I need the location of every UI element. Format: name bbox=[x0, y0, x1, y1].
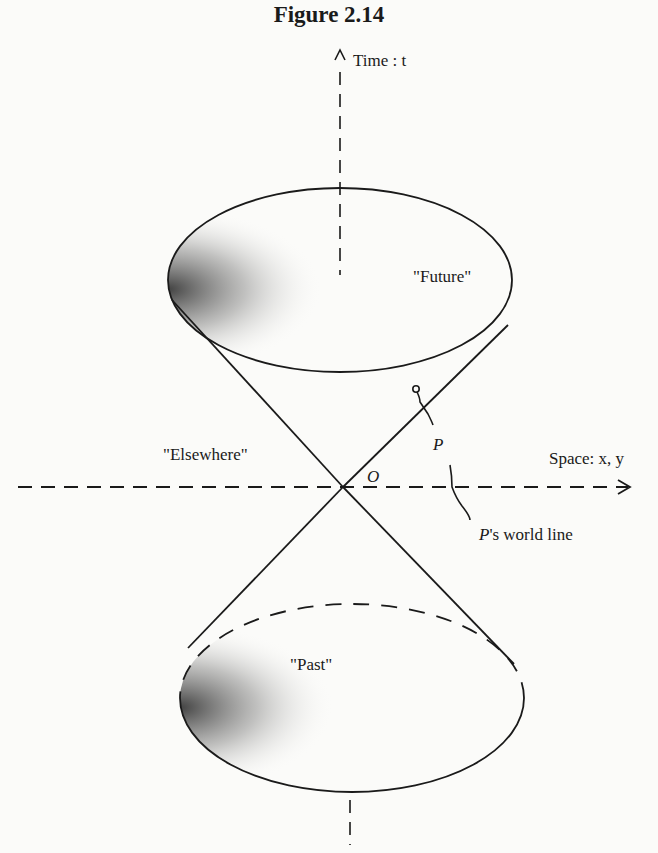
elsewhere-label: "Elsewhere" bbox=[163, 445, 248, 465]
particle-label: P bbox=[433, 435, 443, 455]
world-line-label-p: P bbox=[479, 525, 489, 544]
world-line-label: P's world line bbox=[479, 525, 573, 545]
past-label: "Past" bbox=[290, 655, 332, 675]
world-line-label-text: 's world line bbox=[489, 525, 572, 544]
light-cone-diagram bbox=[0, 0, 658, 853]
future-cone bbox=[168, 188, 512, 487]
past-cone bbox=[180, 487, 524, 792]
space-axis bbox=[18, 480, 630, 494]
particle-p bbox=[413, 386, 433, 425]
time-axis-label: Time : t bbox=[353, 51, 406, 71]
origin-label: O bbox=[367, 467, 379, 487]
world-line-pointer bbox=[450, 465, 470, 520]
space-axis-label: Space: x, y bbox=[549, 449, 624, 469]
future-label: "Future" bbox=[413, 267, 471, 287]
